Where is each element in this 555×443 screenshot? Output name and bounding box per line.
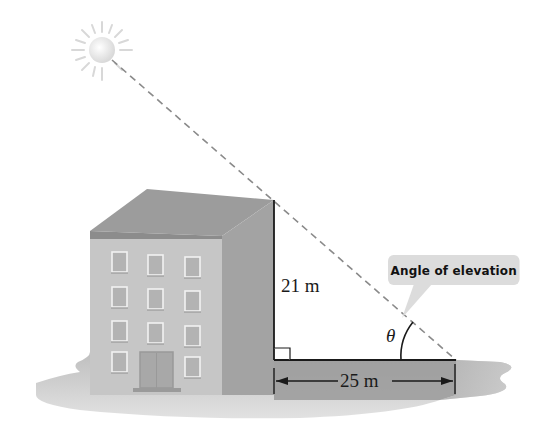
diagram-canvas: Angle of elevation 21 m 25 m θ bbox=[0, 0, 555, 443]
height-label: 21 m bbox=[281, 275, 320, 297]
diagram-svg bbox=[0, 0, 555, 443]
callout-pointer bbox=[402, 284, 432, 318]
distance-label: 25 m bbox=[340, 370, 379, 392]
sun-icon bbox=[72, 22, 132, 80]
angle-arc bbox=[401, 322, 413, 360]
angle-theta-label: θ bbox=[386, 325, 395, 347]
right-angle-marker bbox=[274, 348, 290, 360]
building-illustration bbox=[90, 189, 274, 395]
angle-of-elevation-callout: Angle of elevation bbox=[388, 255, 520, 285]
